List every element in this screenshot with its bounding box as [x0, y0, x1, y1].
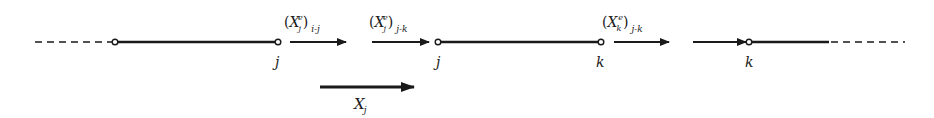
node-k-right: [746, 39, 752, 45]
force-label-jk-j: (Xje)j-k: [369, 13, 407, 34]
node-left-start: [112, 39, 118, 45]
node-label-j-left: j: [272, 54, 280, 70]
element-force-diagram: j (Xje)i-j (Xje)j-k j k (Xke)j-k k Xj: [0, 0, 934, 118]
node-k-left: [598, 39, 604, 45]
node-label-k-right: k: [745, 54, 753, 70]
node-label-k-left: k: [596, 54, 604, 70]
force-label-ij: (Xje)i-j: [284, 13, 320, 34]
node-j-right: [435, 39, 441, 45]
resultant-label: Xj: [353, 95, 367, 115]
force-label-jk-k: (Xke)j-k: [602, 13, 643, 34]
node-j-left: [275, 39, 281, 45]
node-label-j-right: j: [433, 54, 441, 70]
